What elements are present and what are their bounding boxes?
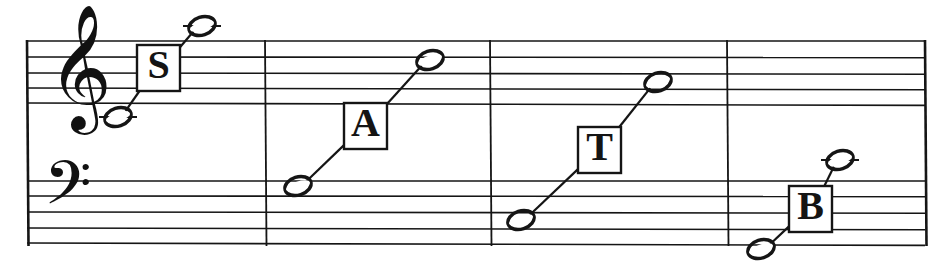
measure-tenor: T xyxy=(505,69,673,232)
bass-staff-line xyxy=(27,243,925,245)
barline xyxy=(27,40,29,246)
measure-annotations: SATB xyxy=(99,13,859,261)
barline xyxy=(727,40,729,246)
measure-soprano-label-text: S xyxy=(147,42,169,87)
barline xyxy=(265,40,267,246)
measure-alto-label-text: A xyxy=(351,100,380,145)
measure-alto: A xyxy=(282,47,445,198)
music-notation-figure: 𝄞 𝄢 SATB xyxy=(0,0,947,275)
grand-staff-score: 𝄞 𝄢 SATB xyxy=(0,0,947,275)
measure-tenor-high-connector xyxy=(619,88,650,127)
measure-soprano: S xyxy=(99,13,221,129)
measure-alto-high-connector xyxy=(387,66,422,104)
clefs: 𝄞 𝄢 xyxy=(44,4,112,233)
treble-staff-line xyxy=(27,103,925,105)
barline xyxy=(490,40,492,246)
measure-bass-label-text: B xyxy=(797,183,824,228)
measure-tenor-label-text: T xyxy=(586,124,613,169)
bass-clef-icon: 𝄢 xyxy=(44,147,92,233)
measure-alto-low-connector xyxy=(307,145,344,181)
measure-tenor-low-connector xyxy=(530,169,578,215)
barline xyxy=(925,40,927,246)
treble-clef-icon: 𝄞 xyxy=(48,4,112,135)
